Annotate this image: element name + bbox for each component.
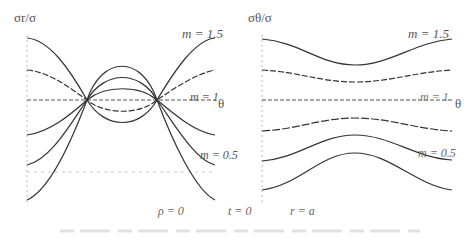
condition-t: t = 0 xyxy=(228,204,251,219)
right-label-m1-5: m = 1.5 xyxy=(408,26,449,42)
left-curve-m1-25 xyxy=(27,70,215,111)
condition-rho: ρ = 0 xyxy=(158,204,184,219)
left-label-m0-5: m = 0.5 xyxy=(200,148,238,163)
left-curve-m0-25 xyxy=(27,66,215,200)
left-x-axis-label: θ xyxy=(218,96,224,112)
right-curve-m0-75 xyxy=(262,118,452,131)
right-y-axis-label: σθ/σ xyxy=(248,10,272,26)
right-curve-m1-5 xyxy=(262,39,452,65)
condition-r: r = a xyxy=(290,204,315,219)
left-plot xyxy=(27,35,215,205)
right-x-axis-label: θ xyxy=(455,96,461,112)
left-curve-m1-5 xyxy=(27,38,215,123)
left-curve-m0-75 xyxy=(27,89,215,135)
left-label-m1-5: m = 1.5 xyxy=(182,26,223,42)
right-label-m1: m = 1 xyxy=(420,90,449,105)
right-curve-m1-25 xyxy=(262,70,452,82)
faded-caption xyxy=(60,226,420,236)
right-plot xyxy=(262,35,452,205)
left-curve-m0-5 xyxy=(27,78,215,166)
right-label-m0-5: m = 0.5 xyxy=(418,146,456,161)
left-label-m1: m = 1 xyxy=(190,90,219,105)
left-y-axis-label: σr/σ xyxy=(14,10,36,26)
